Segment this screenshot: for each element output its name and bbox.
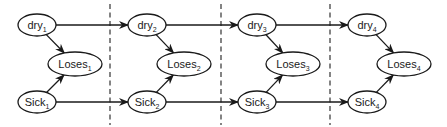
node-label-subscript: 4 <box>375 103 379 110</box>
node-sick-1: Sick1 <box>18 91 56 113</box>
edge-sick3-to-loses3 <box>266 75 282 92</box>
node-dry-2: dry2 <box>128 14 166 36</box>
edge-sick2-to-loses2 <box>156 75 173 92</box>
node-label: Loses1 <box>58 58 91 72</box>
node-sick-2: Sick2 <box>128 91 166 113</box>
node-loses-1: Loses1 <box>48 52 102 76</box>
node-sick-3: Sick3 <box>238 91 276 113</box>
edge-dry1-to-loses1 <box>46 35 64 53</box>
node-label-base: dry <box>137 19 153 31</box>
node-label-subscript: 3 <box>265 103 269 110</box>
node-label-base: Sick <box>135 96 156 108</box>
node-label-subscript: 2 <box>155 103 159 110</box>
node-dry-1: dry1 <box>18 14 56 36</box>
node-label-base: dry <box>357 19 373 31</box>
node-label-base: Loses <box>387 58 417 70</box>
edge-dry4-to-loses4 <box>376 35 393 53</box>
node-label: Loses4 <box>387 58 420 72</box>
node-label-subscript: 1 <box>88 65 92 72</box>
edge-dry3-to-loses3 <box>266 35 283 53</box>
node-label-base: Sick <box>245 96 266 108</box>
node-label-subscript: 4 <box>373 26 377 33</box>
node-label: Loses2 <box>167 58 200 72</box>
edge-sick1-to-loses1 <box>47 75 65 93</box>
node-sick-4: Sick4 <box>348 91 386 113</box>
node-label-base: Loses <box>167 58 197 70</box>
dbn-diagram: dry1Loses1Sick1dry2Loses2Sick2dry3Loses3… <box>0 0 447 127</box>
node-label-subscript: 4 <box>417 65 421 72</box>
node-loses-4: Loses4 <box>377 52 431 76</box>
node-dry-4: dry4 <box>348 14 386 36</box>
edge-dry2-to-loses2 <box>156 35 173 53</box>
node-label-base: Sick <box>25 96 46 108</box>
node-label-base: dry <box>27 19 43 31</box>
node-label-base: dry <box>247 19 263 31</box>
node-loses-2: Loses2 <box>157 52 211 76</box>
node-loses-3: Loses3 <box>266 52 320 76</box>
node-label-subscript: 3 <box>306 65 310 72</box>
node-label-subscript: 3 <box>263 26 267 33</box>
node-label: Loses3 <box>276 58 309 72</box>
node-label-base: Loses <box>276 58 306 70</box>
node-label-subscript: 2 <box>197 65 201 72</box>
edge-sick4-to-loses4 <box>376 75 393 92</box>
node-label-subscript: 2 <box>153 26 157 33</box>
nodes: dry1Loses1Sick1dry2Loses2Sick2dry3Loses3… <box>18 14 431 113</box>
node-label-base: Loses <box>58 58 88 70</box>
node-label-subscript: 1 <box>45 103 49 110</box>
node-label-base: Sick <box>355 96 376 108</box>
node-label-subscript: 1 <box>43 26 47 33</box>
node-dry-3: dry3 <box>238 14 276 36</box>
